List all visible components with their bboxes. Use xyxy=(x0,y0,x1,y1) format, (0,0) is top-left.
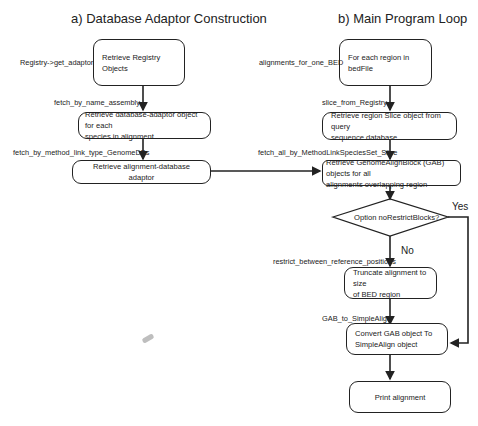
step-text-line: Retrieve Registry xyxy=(102,52,160,63)
step-text-line: For each region in xyxy=(348,52,409,63)
decision-no-label: No xyxy=(401,245,414,256)
method-registry-get-adaptor: Registry->get_adaptor xyxy=(20,58,93,67)
method-fetch-by-method-link-type: fetch_by_method_link_type_GenomeDBs xyxy=(13,148,149,157)
step-text-line: species in alignment xyxy=(85,131,204,142)
step-retrieve-slice: Retrieve region Slice object from query … xyxy=(322,112,457,140)
step-text-line: Print alignment xyxy=(375,392,426,403)
step-text-line: Objects xyxy=(102,63,160,74)
step-retrieve-gab: Retrieve GenomeAlignBlock (GAB) objects … xyxy=(322,160,461,186)
method-slice-from-registry: slice_from_Registry xyxy=(322,98,387,107)
step-text-line: bedFile xyxy=(348,63,409,74)
panel-a-title: a) Database Adaptor Construction xyxy=(71,11,267,26)
decision-yes-label: Yes xyxy=(452,201,468,212)
step-print-alignment: Print alignment xyxy=(349,381,451,413)
panel-b-title: b) Main Program Loop xyxy=(338,11,467,26)
method-gab-to-simplealign: GAB_to_SimpleAlign xyxy=(322,314,391,323)
step-retrieve-db-adaptor: Retrieve database-adaptor object for eac… xyxy=(78,112,211,139)
step-convert-gab: Convert GAB object To SimpleAlign object xyxy=(346,323,448,355)
step-text-line: Retrieve region Slice object from query xyxy=(331,110,448,132)
step-truncate-alignment: Truncate alignment to size of BED region xyxy=(344,267,437,299)
decision-no-restrict-blocks: Option noRestrictBlocks? xyxy=(354,213,439,222)
step-text-line: alignments overlapping region xyxy=(326,179,457,190)
method-fetch-by-name-assembly: fetch_by_name_assembly xyxy=(54,98,140,107)
step-text-line: Retrieve alignment-database adaptor xyxy=(81,161,202,183)
step-retrieve-alignment-adaptor: Retrieve alignment-database adaptor xyxy=(72,160,211,184)
step-text-line: sequence database xyxy=(331,132,448,143)
method-restrict-between-reference-positions: restrict_between_reference_positions xyxy=(273,257,396,266)
method-alignments-for-one-bed: alignments_for_one_BED xyxy=(259,58,343,67)
step-retrieve-registry: Retrieve Registry Objects xyxy=(93,39,185,86)
step-text-line: Convert GAB object To xyxy=(355,328,432,339)
step-for-each-region: For each region in bedFile xyxy=(339,39,432,86)
step-text-line: Retrieve GenomeAlignBlock (GAB) objects … xyxy=(326,157,457,179)
step-text-line: SimpleAlign object xyxy=(355,339,432,350)
step-text-line: Retrieve database-adaptor object for eac… xyxy=(85,109,204,131)
step-text-line: of BED region xyxy=(353,289,428,300)
step-text-line: Truncate alignment to size xyxy=(353,267,428,289)
